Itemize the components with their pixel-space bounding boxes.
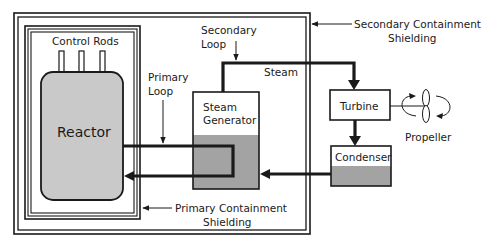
- reactor-label: Reactor: [57, 124, 111, 140]
- primary-loop-label-2: Loop: [148, 85, 174, 97]
- control-rods: [59, 51, 105, 73]
- secondary-containment-label-1: Secondary Containment: [354, 18, 481, 30]
- secondary-loop-label-1: Secondary: [201, 24, 257, 36]
- turbine-to-condenser-line: [349, 120, 361, 146]
- secondary-loop-label-2: Loop: [201, 38, 227, 50]
- reactor-propulsion-diagram: Control Rods Reactor Steam Generator Pri…: [0, 0, 486, 252]
- control-rods-label: Control Rods: [52, 35, 119, 47]
- primary-loop-label-1: Primary: [148, 71, 189, 83]
- condenser-label: Condenser: [335, 151, 392, 163]
- steam-label: Steam: [264, 66, 298, 78]
- steam-generator-label-1: Steam: [203, 101, 237, 113]
- primary-containment-label-2: Shielding: [203, 216, 252, 228]
- steam-generator-label-2: Generator: [203, 114, 257, 126]
- feedwater-return-line: [260, 169, 331, 179]
- propeller-label: Propeller: [405, 131, 452, 143]
- primary-containment-label-1: Primary Containment: [175, 202, 287, 214]
- turbine-label: Turbine: [339, 100, 379, 112]
- secondary-containment-label-2: Shielding: [388, 32, 437, 44]
